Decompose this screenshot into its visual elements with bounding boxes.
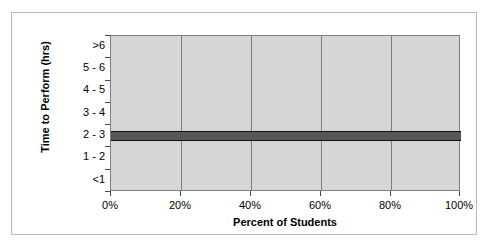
plot-area — [110, 35, 460, 191]
y-axis-tick-label: <1 — [63, 174, 105, 185]
gridline-60 — [321, 36, 322, 190]
chart-frame: Time to Perform (hrs) >6 5 - 6 4 - 5 3 -… — [11, 12, 477, 235]
x-axis-tick — [180, 191, 181, 196]
y-axis-tick-labels: >6 5 - 6 4 - 5 3 - 4 2 - 3 1 - 2 <1 — [60, 35, 105, 191]
y-axis-tick-label: 1 - 2 — [63, 151, 105, 162]
gridline-40 — [251, 36, 252, 190]
y-axis-tick-label: 4 - 5 — [63, 84, 105, 95]
x-axis-tick-label: 80% — [379, 199, 401, 211]
x-axis-tick — [320, 191, 321, 196]
y-axis-tick-label: >6 — [63, 40, 105, 51]
x-axis-tick-label: 100% — [445, 199, 473, 211]
x-axis-tick — [110, 191, 111, 196]
x-axis-tick — [459, 191, 460, 196]
chart-figure: Time to Perform (hrs) >6 5 - 6 4 - 5 3 -… — [0, 0, 491, 247]
x-axis-tick-label: 60% — [309, 199, 331, 211]
y-axis-tick-label: 3 - 4 — [63, 107, 105, 118]
y-axis-tick-label: 2 - 3 — [63, 129, 105, 140]
x-axis-tick — [390, 191, 391, 196]
x-axis-tick-label: 40% — [239, 199, 261, 211]
y-axis-title: Time to Perform (hrs) — [39, 17, 51, 177]
x-axis-tick-label: 0% — [102, 199, 118, 211]
gridline-80 — [391, 36, 392, 190]
gridline-20 — [181, 36, 182, 190]
x-axis-tick-label: 20% — [169, 199, 191, 211]
x-axis-title: Percent of Students — [110, 216, 460, 228]
y-axis-tick-label: 5 - 6 — [63, 62, 105, 73]
bar-2-3 — [111, 131, 461, 141]
x-axis-tick — [250, 191, 251, 196]
